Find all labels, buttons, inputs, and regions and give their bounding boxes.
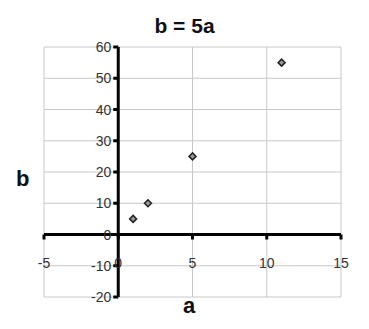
y-tick-label: 30 [96, 133, 112, 149]
y-tick-label: 50 [96, 70, 112, 86]
x-tick-label: 5 [189, 255, 197, 271]
y-tick-label: 0 [103, 227, 111, 243]
data-point [189, 153, 196, 160]
data-point [278, 59, 285, 66]
data-point [130, 215, 137, 222]
y-tick-label: -20 [91, 289, 111, 305]
y-tick-label: 10 [96, 195, 112, 211]
y-tick-label: 20 [96, 164, 112, 180]
x-tick-label: 15 [333, 255, 349, 271]
x-tick-label: 10 [259, 255, 275, 271]
scatter-plot: -5051015-20-100102030405060 [0, 0, 369, 329]
data-point [144, 200, 151, 207]
y-tick-label: 60 [96, 39, 112, 55]
y-tick-label: -10 [91, 258, 111, 274]
x-tick-label: -5 [38, 255, 51, 271]
y-tick-label: 40 [96, 102, 112, 118]
x-tick-label: 0 [114, 255, 122, 271]
